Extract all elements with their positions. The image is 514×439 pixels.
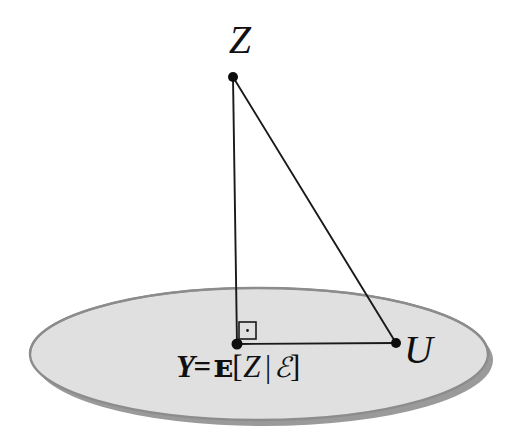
formula-conditional-bar: | <box>265 349 271 384</box>
point-z-dot <box>228 72 238 82</box>
formula-lhs-y: Y <box>176 349 194 384</box>
conditional-expectation-formula: Y=ᴇ[Z|ℰ] <box>0 351 476 382</box>
point-y-dot <box>232 339 243 350</box>
formula-expectation-symbol: ᴇ <box>214 348 233 384</box>
point-u-dot <box>391 338 401 348</box>
figure-root: Z U Y=ᴇ[Z|ℰ] <box>0 0 514 439</box>
formula-sigma-algebra-symbol: ℰ <box>274 351 291 384</box>
formula-open-bracket: [ <box>232 349 242 384</box>
point-z-label: Z <box>0 20 480 60</box>
segment-y-to-u <box>237 343 396 344</box>
formula-equals-sign: = <box>194 349 211 384</box>
formula-close-bracket: ] <box>290 349 300 384</box>
formula-random-variable-z: Z <box>243 349 260 384</box>
